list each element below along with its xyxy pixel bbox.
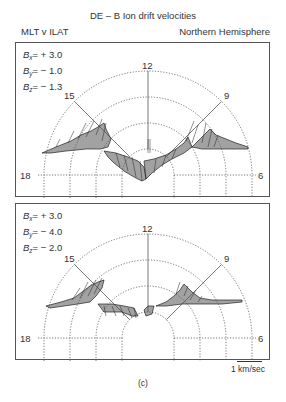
mlt-label-6: 6	[258, 170, 263, 181]
mlt-label-6: 6	[258, 333, 263, 344]
param-by: By= − 1.0	[23, 64, 62, 80]
scale-label: 1 km/sec	[231, 364, 265, 374]
mlt-label-12: 12	[142, 60, 153, 71]
polar-panel-2: 12 15 9 18 6 Bx= + 3.0 By= − 4.0 Bz= − 2…	[15, 203, 270, 360]
mlt-label-18: 18	[20, 170, 31, 181]
polar-panel-1: 12 15 9 18 6 Bx= + 3.0 By= − 1.0 Bz= − 1…	[15, 42, 270, 197]
param-bz: Bz= − 2.0	[23, 241, 62, 257]
param-bx: Bx= + 3.0	[23, 209, 62, 225]
param-bz: Bz= − 1.3	[23, 80, 62, 96]
hemisphere-label: Northern Hemisphere	[179, 26, 270, 37]
imf-params-1: Bx= + 3.0 By= − 1.0 Bz= − 1.3	[23, 48, 62, 96]
mlt-label-15: 15	[64, 253, 75, 264]
mlt-label-15: 15	[64, 90, 75, 101]
mlt-label-18: 18	[20, 333, 31, 344]
imf-params-2: Bx= + 3.0 By= − 4.0 Bz= − 2.0	[23, 209, 62, 257]
scale-bar	[237, 361, 262, 362]
param-bx: Bx= + 3.0	[23, 48, 62, 64]
coords-label: MLT v ILAT	[21, 26, 69, 37]
figure-title: DE – B Ion drift velocities	[0, 10, 286, 21]
figure-caption: (c)	[0, 378, 286, 388]
param-by: By= − 4.0	[23, 225, 62, 241]
mlt-label-9: 9	[224, 253, 229, 264]
mlt-label-12: 12	[142, 223, 153, 234]
mlt-label-9: 9	[224, 90, 229, 101]
